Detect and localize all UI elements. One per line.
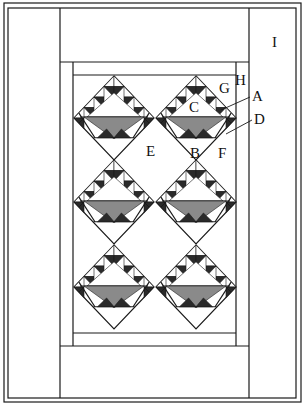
light-triangle: [206, 171, 216, 182]
label-e: E: [146, 143, 155, 159]
light-triangle: [206, 87, 216, 98]
label-i: I: [272, 34, 277, 50]
light-triangle: [166, 181, 176, 192]
light-triangle: [216, 97, 226, 108]
light-triangle: [84, 266, 94, 277]
basket-block: [156, 160, 236, 244]
basket-block: [74, 76, 154, 160]
label-c: C: [189, 99, 199, 115]
light-triangle: [176, 256, 186, 267]
light-triangle: [134, 97, 144, 108]
basket-block: [74, 245, 154, 329]
light-triangle: [134, 266, 144, 277]
light-triangle: [114, 245, 124, 256]
light-triangle: [84, 181, 94, 192]
light-triangle: [114, 160, 124, 171]
light-triangle: [196, 245, 206, 256]
light-triangle: [114, 76, 124, 87]
light-triangle: [104, 245, 114, 256]
light-triangle: [134, 181, 144, 192]
light-triangle: [196, 76, 206, 87]
light-triangle: [94, 256, 104, 267]
light-triangle: [84, 97, 94, 108]
quilt-diagram: IHGACDEBF: [0, 0, 304, 404]
light-triangle: [176, 171, 186, 182]
label-b: B: [190, 145, 200, 161]
light-triangle: [94, 171, 104, 182]
light-triangle: [216, 181, 226, 192]
light-triangle: [104, 76, 114, 87]
light-triangle: [166, 97, 176, 108]
basket-block: [156, 245, 236, 329]
light-triangle: [196, 160, 206, 171]
light-triangle: [124, 87, 134, 98]
basket-blocks: [74, 76, 236, 329]
label-a: A: [252, 88, 263, 104]
light-triangle: [124, 171, 134, 182]
light-triangle: [94, 87, 104, 98]
basket-block: [74, 160, 154, 244]
light-triangle: [186, 76, 196, 87]
light-triangle: [186, 245, 196, 256]
light-triangle: [166, 266, 176, 277]
label-h: H: [235, 72, 246, 88]
label-f: F: [218, 145, 226, 161]
label-g: G: [219, 80, 230, 96]
light-triangle: [186, 160, 196, 171]
light-triangle: [124, 256, 134, 267]
light-triangle: [206, 256, 216, 267]
light-triangle: [216, 266, 226, 277]
light-triangle: [104, 160, 114, 171]
label-d: D: [254, 111, 265, 127]
light-triangle: [176, 87, 186, 98]
